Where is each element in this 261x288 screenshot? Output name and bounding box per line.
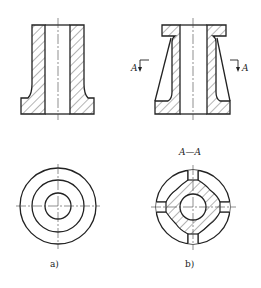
section-title: A—A (178, 147, 201, 157)
view-a-top-view: a) (16, 164, 100, 269)
view-b-front-section: A A (130, 18, 249, 120)
caption-b: b) (185, 259, 194, 269)
arrow-label-left: A (130, 63, 138, 73)
arrow-label-right: A (241, 63, 249, 73)
view-a-front-section (21, 18, 94, 120)
technical-drawing: A A a) A—A b) (0, 0, 261, 288)
caption-a: a) (50, 259, 59, 269)
section-arrow-left: A (130, 60, 149, 73)
view-b-section-aa: A—A b) (150, 147, 236, 269)
section-arrow-right: A (230, 60, 249, 73)
